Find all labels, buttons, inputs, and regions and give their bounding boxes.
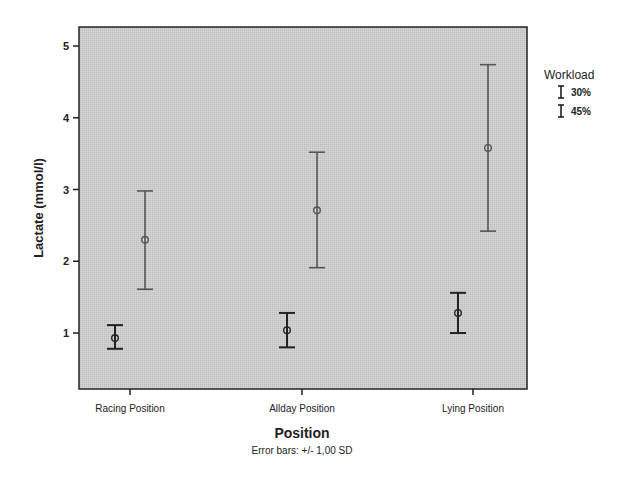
x-tick-label: Racing Position [95, 403, 164, 414]
y-tick-label: 2 [63, 255, 69, 267]
legend-item: 30% [558, 86, 591, 98]
legend-label: 45% [571, 106, 591, 117]
legend: Workload 30%45% [544, 68, 594, 117]
x-axis-label: Position [274, 425, 329, 441]
y-tick-label: 5 [63, 40, 69, 52]
x-tick-label: Allday Position [269, 403, 335, 414]
legend-item: 45% [558, 105, 591, 117]
error-bar-chart: 12345 Racing PositionAllday PositionLyin… [0, 0, 632, 478]
y-axis: 12345 [63, 40, 79, 339]
y-axis-label: Lactate (mmol/l) [31, 158, 46, 258]
y-tick-label: 1 [63, 327, 69, 339]
x-axis: Racing PositionAllday PositionLying Posi… [95, 389, 504, 414]
legend-title: Workload [544, 68, 594, 82]
y-tick-label: 4 [63, 112, 70, 124]
legend-label: 30% [571, 87, 591, 98]
x-tick-label: Lying Position [442, 403, 504, 414]
plot-area [79, 27, 527, 389]
error-bars-note: Error bars: +/- 1,00 SD [252, 445, 353, 456]
y-tick-label: 3 [63, 184, 69, 196]
